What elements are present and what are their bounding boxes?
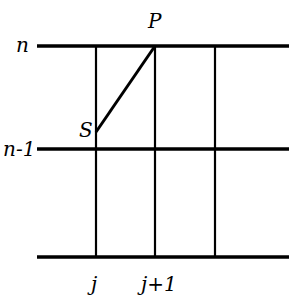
grid-diagram: n n-1 S P j j+1: [0, 0, 295, 306]
row-label-n-minus-1: n-1: [3, 137, 35, 161]
point-label-p: P: [147, 9, 162, 33]
row-label-n: n: [16, 33, 29, 57]
segment-s-to-p: [96, 46, 155, 132]
point-label-s: S: [79, 118, 93, 142]
column-label-j: j: [87, 272, 97, 296]
column-label-j-plus-1: j+1: [137, 272, 177, 296]
